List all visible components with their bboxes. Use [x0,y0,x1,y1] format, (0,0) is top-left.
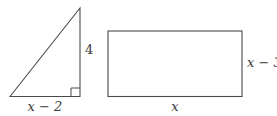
triangle-base-label: x − 2 [28,99,63,114]
figure-svg: 4 x − 2 x − 3 x [0,0,277,116]
triangle-height-label: 4 [85,42,93,57]
right-triangle-shape [10,8,80,97]
rectangle-shape [108,31,242,97]
rectangle-base-label: x [171,99,179,114]
right-angle-marker-icon [71,88,80,97]
geometry-figure: 4 x − 2 x − 3 x [0,0,277,116]
rectangle-side-label: x − 3 [247,55,277,70]
